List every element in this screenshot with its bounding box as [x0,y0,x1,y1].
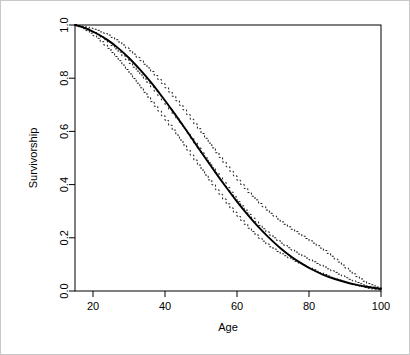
survivorship-chart: 20406080100 0.00.20.40.60.81.0 Age Survi… [1,1,410,355]
x-tick-label: 80 [303,300,315,312]
y-axis: 0.00.20.40.60.81.0 [58,17,75,298]
plot-frame [75,25,381,291]
series-path-fitted [75,25,381,289]
x-axis: 20406080100 [87,291,390,312]
y-tick-label: 1.0 [58,17,70,32]
series-path-upper-band [75,25,381,288]
y-tick-label: 0.4 [58,177,70,192]
x-axis-title: Age [218,321,238,333]
y-tick-label: 0.2 [58,230,70,245]
x-tick-label: 100 [372,300,390,312]
series-path-empirical [75,25,381,289]
y-tick-label: 0.6 [58,124,70,139]
plot-box-border [75,25,381,291]
series-path-lower-band [75,25,381,290]
x-tick-label: 20 [87,300,99,312]
x-tick-label: 40 [159,300,171,312]
figure-container: 20406080100 0.00.20.40.60.81.0 Age Survi… [0,0,410,355]
y-tick-label: 0.0 [58,283,70,298]
data-series-group [75,25,381,290]
y-axis-title: Survivorship [27,128,39,189]
x-tick-label: 60 [231,300,243,312]
y-tick-label: 0.8 [58,71,70,86]
